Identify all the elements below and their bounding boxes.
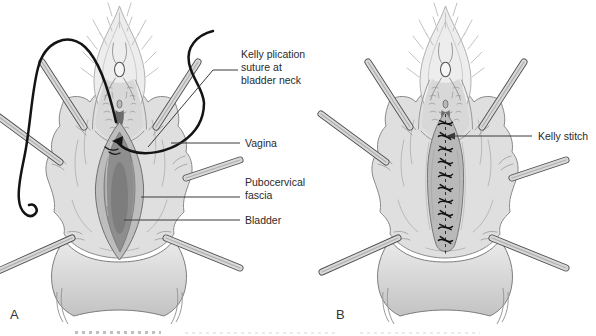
panel-b-drawing — [321, 3, 566, 324]
panel-a-drawing — [0, 3, 240, 324]
cropped-caption-sliver — [360, 332, 480, 334]
label-vagina: Vagina — [245, 137, 277, 150]
figure-canvas: Kelly plication suture at bladder neck V… — [0, 0, 596, 336]
cropped-caption-sliver — [185, 332, 335, 334]
label-pubocervical-fascia: Pubocervical fascia — [245, 176, 335, 202]
panel-letter-a: A — [10, 307, 19, 322]
label-bladder: Bladder — [245, 214, 281, 227]
cropped-caption-sliver — [75, 331, 161, 334]
panel-letter-b: B — [336, 307, 345, 322]
label-kelly-stitch: Kelly stitch — [538, 130, 588, 143]
label-kelly-plication-suture: Kelly plication suture at bladder neck — [241, 48, 336, 87]
